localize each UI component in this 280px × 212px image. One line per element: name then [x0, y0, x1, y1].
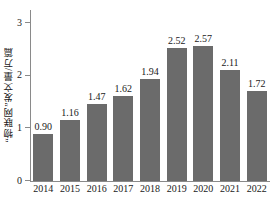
bar[interactable] [193, 46, 213, 181]
bar-value-label: 1.16 [61, 108, 79, 118]
y-axis-tick-label: 2 [17, 70, 22, 80]
bar-slot: 2.52 [167, 9, 187, 181]
bar-slot: 1.47 [87, 9, 107, 181]
y-axis-title: “物联网”发文量/万篇 [0, 0, 18, 190]
y-axis-title-text: “物联网”发文量/万篇 [2, 47, 16, 142]
bar-slot: 1.62 [113, 9, 133, 181]
bar-value-label: 2.52 [168, 36, 186, 46]
bar-value-label: 1.62 [115, 84, 133, 94]
y-axis-tick-label: 0 [17, 176, 22, 186]
bar-slot: 0.90 [33, 9, 53, 181]
y-axis-tick-label: 1 [17, 123, 22, 133]
bar[interactable] [60, 120, 80, 181]
bar-series: 0.901.161.471.621.942.522.572.111.72 [30, 10, 270, 182]
bar[interactable] [33, 134, 53, 181]
bar-value-label: 1.94 [141, 67, 159, 77]
bar[interactable] [247, 91, 267, 181]
bar[interactable] [140, 79, 160, 181]
bar-value-label: 1.72 [248, 79, 266, 89]
bar-value-label: 0.90 [35, 122, 53, 132]
bar-slot: 1.94 [140, 9, 160, 181]
bar-value-label: 2.57 [195, 34, 213, 44]
x-axis-tick-label: 2022 [240, 184, 274, 194]
bar[interactable] [167, 48, 187, 181]
bar-slot: 2.11 [220, 9, 240, 181]
bar[interactable] [113, 96, 133, 181]
bar-slot: 2.57 [193, 9, 213, 181]
bar[interactable] [87, 104, 107, 181]
bar-value-label: 2.11 [221, 58, 238, 68]
bar-slot: 1.16 [60, 9, 80, 181]
bar-value-label: 1.47 [88, 92, 106, 102]
bar-chart: “物联网”发文量/万篇 0123 0.901.161.471.621.942.5… [0, 0, 280, 212]
x-axis-ticks: 201420152016201720182019202020212022 [30, 184, 270, 200]
bar[interactable] [220, 70, 240, 181]
plot-area: 0123 0.901.161.471.621.942.522.572.111.7… [30, 10, 270, 182]
y-axis-tick-label: 3 [17, 18, 22, 28]
bar-slot: 1.72 [247, 9, 267, 181]
